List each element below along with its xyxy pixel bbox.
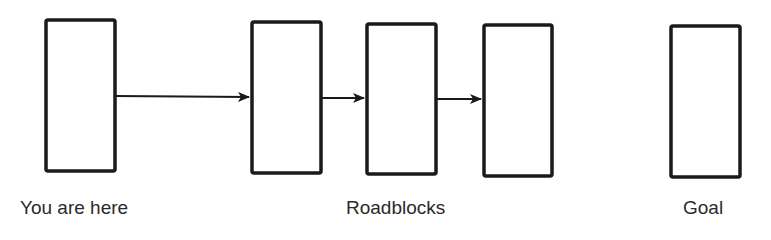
roadblock-box-1 [252, 22, 321, 173]
roadblock-box-3 [484, 25, 552, 176]
goal-label: Goal [683, 198, 723, 217]
arrow-start-to-roadblock-1 [116, 96, 249, 97]
roadblocks-label: Roadblocks [346, 198, 445, 217]
start-box [46, 20, 115, 171]
goal-box [671, 26, 740, 177]
roadblock-box-2 [367, 24, 436, 174]
start-label: You are here [20, 198, 128, 217]
